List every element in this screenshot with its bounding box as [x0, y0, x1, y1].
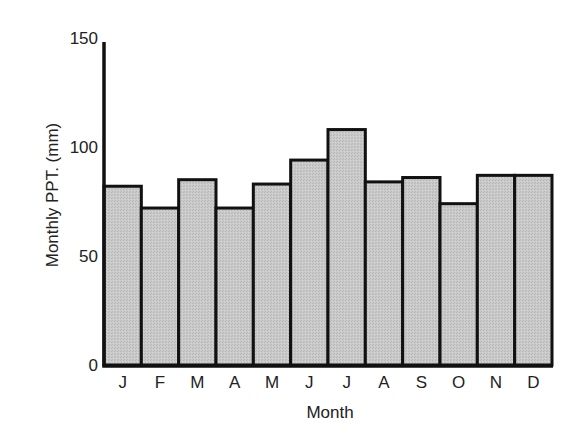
bar-2: [179, 180, 216, 365]
bar-5: [291, 160, 328, 365]
y-tick-label: 0: [89, 356, 98, 375]
x-axis-title: Month: [306, 403, 353, 422]
precipitation-bar-chart: 050100150 JFMAMJJASOND Month Monthly PPT…: [0, 0, 588, 446]
bar-11: [515, 175, 552, 365]
y-tick-label: 150: [70, 29, 98, 48]
x-tick-label: M: [190, 373, 204, 392]
bar-4: [253, 184, 290, 365]
x-tick-label: O: [452, 373, 465, 392]
x-tick-label: J: [342, 373, 351, 392]
x-tick-label: A: [378, 373, 390, 392]
y-tick-label: 50: [79, 247, 98, 266]
x-tick-label: S: [416, 373, 427, 392]
y-axis-title: Monthly PPT. (mm): [43, 123, 62, 268]
bar-1: [141, 208, 178, 365]
x-tick-label: A: [229, 373, 241, 392]
y-tick-labels: 050100150: [70, 29, 98, 375]
bar-7: [365, 182, 402, 365]
x-tick-label: N: [490, 373, 502, 392]
bar-9: [440, 204, 477, 365]
x-tick-label: J: [118, 373, 127, 392]
bar-0: [104, 186, 141, 365]
bar-10: [477, 175, 514, 365]
x-tick-label: D: [527, 373, 539, 392]
x-tick-label: M: [265, 373, 279, 392]
x-tick-label: F: [155, 373, 165, 392]
bar-6: [328, 130, 365, 365]
bars-group: [104, 130, 552, 365]
x-tick-label: J: [305, 373, 314, 392]
bar-8: [403, 178, 440, 365]
y-tick-label: 100: [70, 138, 98, 157]
x-tick-labels: JFMAMJJASOND: [118, 373, 539, 392]
bar-3: [216, 208, 253, 365]
